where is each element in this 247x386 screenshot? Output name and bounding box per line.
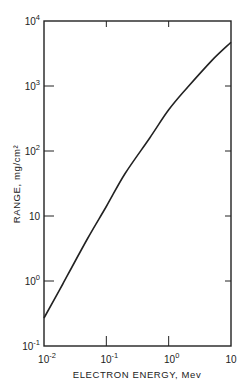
y-axis-label: RANGE, mg/cm² [11, 145, 22, 224]
y-tick-label: 10-1 [22, 338, 40, 352]
y-tick-label: 102 [25, 143, 40, 157]
chart: 10-110010102103104 10-210-110010 ELECTRO… [0, 0, 247, 386]
x-tick-label: 10 [225, 354, 237, 365]
x-tick-label: 10-2 [38, 351, 56, 365]
y-tick-label: 104 [25, 13, 40, 27]
x-axis-label: ELECTRON ENERGY, Mev [73, 369, 202, 380]
y-tick-label: 103 [25, 78, 40, 92]
range-curve [44, 42, 231, 318]
x-tick-label: 100 [164, 351, 179, 365]
x-tick-label: 10-1 [100, 351, 118, 365]
y-tick-label: 100 [25, 273, 40, 287]
y-tick-label: 10 [29, 211, 41, 222]
y-tick-labels: 10-110010102103104 [22, 13, 40, 352]
x-tick-labels: 10-210-110010 [38, 351, 237, 365]
